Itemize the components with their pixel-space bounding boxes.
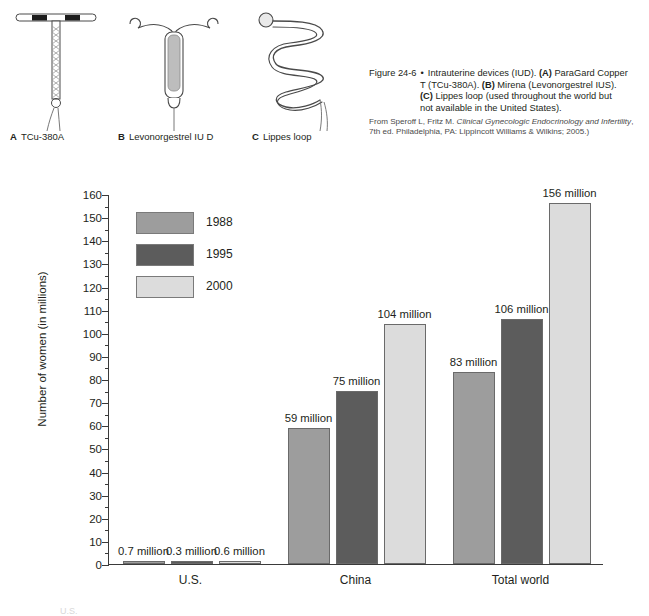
y-tick-major [102, 565, 109, 566]
y-tick-minor [105, 507, 109, 508]
y-tick-minor [105, 461, 109, 462]
bar [501, 319, 543, 564]
bar-value-label: 0.7 million [118, 545, 169, 557]
y-tick-minor [105, 253, 109, 254]
bar-value-label: 0.6 million [214, 545, 265, 557]
y-tick-label: 10 [56, 536, 102, 548]
chart-footnote: U.S. [60, 606, 78, 616]
y-tick-minor [105, 368, 109, 369]
y-tick-label: 50 [56, 443, 102, 455]
caption-line2-rest: Mirena (Levonorgestrel IUS). [495, 80, 617, 90]
y-tick-major [102, 218, 109, 219]
y-tick-label: 70 [56, 397, 102, 409]
y-tick-major [102, 264, 109, 265]
y-tick-major [102, 334, 109, 335]
bar [288, 428, 330, 564]
y-axis-tick-labels: 0102030405060708090100110120130140150160 [46, 195, 102, 565]
legend-swatch [136, 276, 194, 298]
source-title: Clinical Gynecologic Endocrinology and I… [457, 117, 632, 126]
legend-label: 1995 [206, 247, 233, 261]
device-name-b: Levonorgestrel IU D [129, 131, 213, 142]
bar-value-label: 104 million [377, 308, 431, 320]
y-tick-major [102, 380, 109, 381]
y-tick-minor [105, 276, 109, 277]
x-axis-group-label: Total world [492, 573, 549, 587]
y-tick-label: 20 [56, 513, 102, 525]
y-tick-label: 0 [56, 559, 102, 571]
y-tick-minor [105, 530, 109, 531]
caption-line2-lead: T (TCu-380A). [420, 80, 482, 90]
y-tick-major [102, 449, 109, 450]
x-axis-group-label: China [340, 573, 371, 587]
y-tick-minor [105, 299, 109, 300]
y-tick-label: 40 [56, 467, 102, 479]
y-tick-minor [105, 345, 109, 346]
bar [384, 324, 426, 565]
caption-line3: (C) Lippes loop (used throughout the wor… [420, 91, 645, 103]
y-tick-label: 60 [56, 420, 102, 432]
y-tick-major [102, 473, 109, 474]
bar [336, 391, 378, 564]
bar [219, 561, 261, 564]
bar-value-label: 106 million [494, 303, 548, 315]
device-illustration-panel: ATCu-380A BLevonorgestrel IU D CLippes l… [0, 0, 360, 150]
figure-caption-text: Figure 24-6•Intrauterine devices (IUD). … [369, 68, 645, 114]
bar-value-label: 83 million [450, 356, 498, 368]
y-tick-label: 120 [56, 282, 102, 294]
y-tick-minor [105, 484, 109, 485]
iud-copper-t-icon [8, 4, 104, 132]
bar [171, 561, 213, 564]
device-label-c: CLippes loop [252, 131, 311, 142]
y-tick-major [102, 288, 109, 289]
device-letter-c: C [252, 131, 259, 142]
caption-tag-a: (A) [539, 68, 552, 78]
y-tick-label: 90 [56, 351, 102, 363]
caption-line2: T (TCu-380A). (B) Mirena (Levonorgestrel… [420, 80, 645, 92]
y-tick-major [102, 496, 109, 497]
iud-lippes-loop-icon [252, 4, 344, 132]
caption-line1-lead: Intrauterine devices (IUD). [428, 68, 539, 78]
y-tick-major [102, 195, 109, 196]
y-tick-minor [105, 392, 109, 393]
device-name-c: Lippes loop [263, 131, 312, 142]
bar-value-label: 156 million [542, 187, 596, 199]
y-tick-label: 130 [56, 258, 102, 270]
bar [123, 561, 165, 564]
y-tick-major [102, 542, 109, 543]
source-prefix: From Speroff L, Fritz M. [369, 117, 457, 126]
caption-tag-b: (B) [482, 80, 495, 90]
legend-label: 2000 [206, 279, 233, 293]
y-tick-major [102, 426, 109, 427]
y-tick-minor [105, 553, 109, 554]
y-tick-label: 100 [56, 328, 102, 340]
legend-swatch [136, 244, 194, 266]
y-tick-minor [105, 230, 109, 231]
caption-line1-rest: ParaGard Copper [552, 68, 628, 78]
iud-users-bar-chart: Number of women (in millions) 0102030405… [0, 160, 649, 616]
device-letter-b: B [118, 131, 125, 142]
figure-caption: Figure 24-6•Intrauterine devices (IUD). … [369, 68, 645, 137]
y-tick-minor [105, 438, 109, 439]
figure-source-citation: From Speroff L, Fritz M. Clinical Gyneco… [369, 117, 645, 136]
y-tick-major [102, 311, 109, 312]
y-tick-major [102, 241, 109, 242]
y-tick-major [102, 357, 109, 358]
bar-value-label: 75 million [333, 375, 381, 387]
y-tick-label: 150 [56, 212, 102, 224]
bar-value-label: 59 million [285, 412, 333, 424]
device-label-a: ATCu-380A [10, 131, 64, 142]
x-axis-group-label: U.S. [179, 573, 202, 587]
y-tick-minor [105, 415, 109, 416]
device-name-a: TCu-380A [21, 131, 64, 142]
y-tick-label: 30 [56, 490, 102, 502]
y-tick-label: 160 [56, 189, 102, 201]
device-letter-a: A [10, 131, 17, 142]
y-tick-major [102, 519, 109, 520]
y-tick-label: 140 [56, 235, 102, 247]
figure-number: Figure 24-6 [369, 68, 417, 78]
y-tick-minor [105, 207, 109, 208]
caption-bullet: • [421, 68, 424, 78]
y-tick-label: 110 [56, 305, 102, 317]
legend-swatch [136, 212, 194, 234]
y-tick-major [102, 403, 109, 404]
